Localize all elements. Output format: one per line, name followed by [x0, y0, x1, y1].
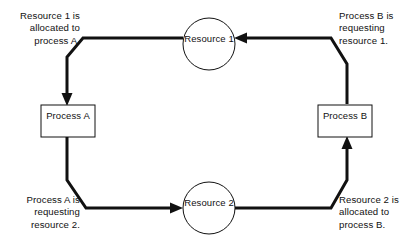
annotation-line: resource 1.	[339, 35, 415, 47]
arrowhead-into-resource2	[170, 203, 183, 214]
node-process-b	[318, 105, 372, 137]
annotation-line: Process B is	[339, 10, 415, 22]
annotation-line: process A.	[8, 35, 80, 47]
annotation-resource1-allocated-process-a: Resource 1 is allocated to process A.	[8, 10, 80, 47]
annotation-line: resource 2.	[8, 219, 80, 231]
annotation-line: Resource 1 is	[8, 10, 80, 22]
annotation-line: allocated to	[339, 206, 415, 218]
annotation-line: allocated to	[8, 22, 80, 34]
annotation-line: process B.	[339, 219, 415, 231]
annotation-line: requesting	[8, 206, 80, 218]
edge-process-b-to-resource1	[234, 33, 347, 105]
arrowhead-into-process-b	[342, 136, 353, 149]
edge-process-a-to-resource2	[67, 137, 183, 214]
edge-resource1-to-process-a	[62, 38, 184, 106]
annotation-line: Resource 2 is	[339, 194, 415, 206]
annotation-resource2-allocated-process-b: Resource 2 is allocated to process B.	[339, 194, 415, 231]
diagram-canvas: Resource 1 Resource 2 Process A Process …	[0, 0, 417, 241]
annotation-process-b-requesting-resource1: Process B is requesting resource 1.	[339, 10, 415, 47]
edge-resource2-to-process-b	[235, 136, 353, 208]
annotation-process-a-requesting-resource2: Process A is requesting resource 2.	[8, 194, 80, 231]
node-resource-1	[183, 18, 235, 70]
node-resource-2	[183, 182, 235, 234]
annotation-line: requesting	[339, 22, 415, 34]
arrowhead-into-resource1	[234, 33, 247, 44]
arrowhead-into-process-a	[62, 93, 73, 106]
node-process-a	[41, 105, 95, 137]
annotation-line: Process A is	[8, 194, 80, 206]
